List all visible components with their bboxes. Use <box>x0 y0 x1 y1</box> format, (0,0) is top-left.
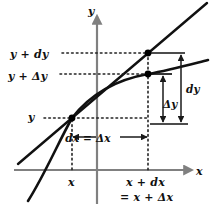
tangency-point-dot <box>69 115 76 122</box>
y-tick-label-y: y <box>28 112 35 123</box>
tangent-line <box>18 3 207 164</box>
differential-diagram: y x y + dy y + Δy y x x + dx = x + Δx dx… <box>0 0 213 208</box>
x-tick-label-x: x <box>68 177 75 188</box>
y-tick-label-y-plus-dy: y + dy <box>10 49 49 60</box>
curve-point-dot <box>145 71 152 78</box>
y-axis-label: y <box>88 6 95 17</box>
diagram-canvas <box>0 0 213 208</box>
x-axis-label: x <box>196 166 203 177</box>
y-tick-label-y-plus-delta-y: y + Δy <box>8 71 47 82</box>
measure-label-dy: dy <box>186 84 200 95</box>
measure-label-dx-equals-delta-x: dx = Δx <box>65 133 111 144</box>
measure-label-delta-y: Δy <box>163 99 178 110</box>
tangent-line-point-dot <box>145 50 152 57</box>
x-tick-label-x-plus-dx: x + dx <box>126 177 165 188</box>
x-tick-label-x-plus-delta-x: = x + Δx <box>120 192 173 203</box>
